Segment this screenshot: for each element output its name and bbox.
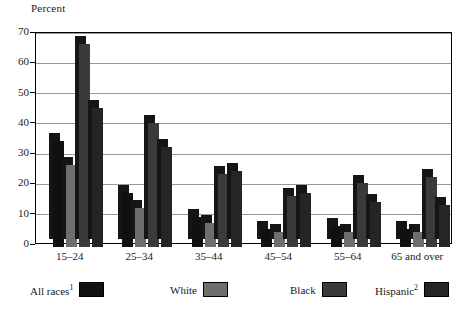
chart-legend: All races1WhiteBlackHispanic2 bbox=[0, 282, 459, 306]
y-tick-label-0: 0 bbox=[3, 238, 29, 249]
legend-swatch bbox=[424, 282, 449, 297]
bar bbox=[366, 194, 381, 243]
bar-group bbox=[257, 33, 307, 243]
bar-group bbox=[49, 33, 99, 243]
plot-area bbox=[35, 32, 452, 244]
bar bbox=[435, 197, 450, 243]
x-axis-label: 35–44 bbox=[174, 250, 244, 262]
legend-item: White bbox=[170, 282, 228, 297]
legend-label: Hispanic2 bbox=[375, 283, 418, 297]
bar-face bbox=[370, 202, 381, 247]
x-axis-label: 45–54 bbox=[244, 250, 314, 262]
legend-item: Black bbox=[290, 282, 347, 297]
x-axis-label: 15–24 bbox=[35, 250, 105, 262]
legend-swatch bbox=[322, 282, 347, 297]
legend-label: Black bbox=[290, 284, 316, 296]
y-tick-label-70: 70 bbox=[3, 26, 29, 37]
bar-group bbox=[327, 33, 377, 243]
bar-face bbox=[92, 108, 103, 247]
legend-swatch bbox=[203, 282, 228, 297]
bar-face bbox=[439, 205, 450, 247]
bar bbox=[296, 185, 311, 244]
bar-chart: Percent 010203040506070 15–2425–3435–444… bbox=[0, 0, 459, 311]
y-tick-label-50: 50 bbox=[3, 87, 29, 98]
y-tick-label-40: 40 bbox=[3, 117, 29, 128]
legend-item: Hispanic2 bbox=[375, 282, 449, 297]
bar-face bbox=[161, 147, 172, 247]
x-axis-label: 25–34 bbox=[105, 250, 175, 262]
bar bbox=[227, 163, 242, 243]
x-axis-label: 55–64 bbox=[313, 250, 383, 262]
bar bbox=[88, 100, 103, 243]
legend-label: All races1 bbox=[30, 283, 73, 297]
bar-group bbox=[188, 33, 238, 243]
bar-face bbox=[300, 193, 311, 248]
y-tick-label-30: 30 bbox=[3, 147, 29, 158]
bar-face bbox=[231, 171, 242, 247]
bar bbox=[157, 139, 172, 243]
x-axis-label: 65 and over bbox=[383, 250, 453, 262]
legend-label: White bbox=[170, 284, 197, 296]
bar-group bbox=[118, 33, 168, 243]
y-axis-title: Percent bbox=[31, 2, 65, 14]
y-tick-label-60: 60 bbox=[3, 56, 29, 67]
legend-swatch bbox=[79, 282, 104, 297]
y-tick-label-20: 20 bbox=[3, 177, 29, 188]
y-tick-label-10: 10 bbox=[3, 208, 29, 219]
legend-item: All races1 bbox=[30, 282, 104, 297]
bar-group bbox=[396, 33, 446, 243]
